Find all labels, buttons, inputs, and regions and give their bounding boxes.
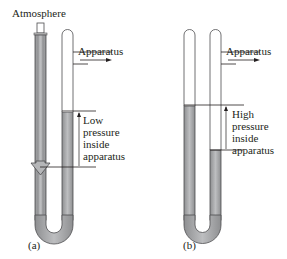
up-arrowhead-icon <box>77 112 81 117</box>
apparatus-arrow-icon <box>254 58 260 62</box>
manometer-diagram: Atmosphere Apparatus <box>0 0 287 259</box>
caption-a: (a) <box>28 239 41 252</box>
u-tube-b <box>184 30 221 244</box>
panel-b: Apparatus High pressure inside apparatus… <box>183 30 274 253</box>
pressure-label-b: High pressure inside apparatus <box>232 108 274 156</box>
down-arrow-icon <box>31 161 50 175</box>
open-tube-cap <box>37 23 44 33</box>
atmosphere-label: Atmosphere <box>12 7 66 19</box>
apparatus-label-a: Apparatus <box>78 45 123 57</box>
panel-a: Atmosphere Apparatus <box>12 7 125 252</box>
apparatus-label-b: Apparatus <box>226 45 271 57</box>
pressure-label-a: Low pressure inside apparatus <box>83 114 125 162</box>
caption-b: (b) <box>183 239 196 252</box>
u-tube-a <box>35 30 73 245</box>
up-arrowhead-icon <box>224 106 228 111</box>
